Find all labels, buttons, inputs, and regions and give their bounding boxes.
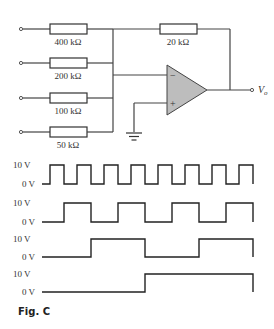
output-terminal (250, 88, 253, 91)
input-branch-1: 400 kΩ (19, 24, 113, 47)
feedback-resistor-20k (160, 24, 197, 34)
input-branch-2: 200 kΩ (19, 58, 113, 81)
low-level-label: 0 V (22, 252, 36, 262)
input-terminal (19, 27, 22, 30)
resistor-400k (50, 24, 87, 34)
resistor-100k (50, 93, 87, 103)
figure-caption: Fig. C (18, 306, 50, 317)
waveform-bit3: 10 V 0 V (13, 269, 253, 297)
square-wave (42, 165, 253, 184)
low-level-label: 0 V (22, 179, 36, 189)
high-level-label: 10 V (13, 269, 31, 279)
high-level-label: 10 V (13, 160, 31, 170)
high-level-label: 10 V (13, 198, 31, 208)
resistor-50k (50, 127, 87, 137)
waveform-bit1: 10 V 0 V (13, 198, 253, 227)
input-terminal (19, 61, 22, 64)
square-wave (42, 239, 253, 257)
square-wave (42, 203, 253, 222)
inverting-input-sign: − (170, 70, 176, 81)
input-branch-3: 100 kΩ (19, 93, 113, 116)
resistor-label: 50 kΩ (57, 140, 80, 150)
low-level-label: 0 V (22, 217, 36, 227)
ground-icon (126, 133, 142, 140)
waveform-bit2: 10 V 0 V (13, 234, 253, 262)
square-wave (42, 274, 253, 292)
output-label: Vo (258, 84, 268, 97)
high-level-label: 10 V (13, 234, 31, 244)
input-terminal (19, 130, 22, 133)
dac-circuit-figure: 400 kΩ 200 kΩ 100 kΩ 50 kΩ 20 kΩ − + (0, 0, 274, 329)
resistor-200k (50, 58, 87, 68)
waveform-bit0: 10 V 0 V (13, 160, 253, 189)
input-branch-4: 50 kΩ (19, 127, 113, 150)
resistor-label: 400 kΩ (55, 37, 82, 47)
resistor-label: 100 kΩ (55, 106, 82, 116)
feedback-resistor-label: 20 kΩ (167, 37, 190, 47)
resistor-label: 200 kΩ (55, 71, 82, 81)
low-level-label: 0 V (22, 287, 36, 297)
input-terminal (19, 96, 22, 99)
noninverting-input-sign: + (170, 98, 176, 109)
